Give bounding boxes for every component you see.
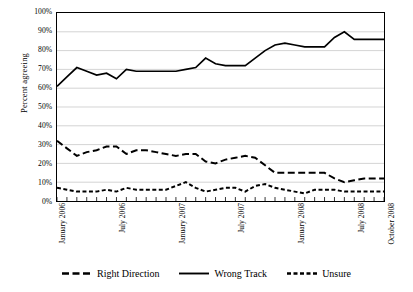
- line-chart: Percent agreeing 0%10%20%30%40%50%60%70%…: [0, 0, 413, 292]
- y-tick-label: 20%: [24, 160, 52, 168]
- y-tick-label: 10%: [24, 179, 52, 187]
- legend-label: Wrong Track: [214, 268, 267, 279]
- x-tick-label: October 2008: [388, 203, 396, 245]
- x-tick-label: July 2007: [238, 203, 246, 233]
- y-tick-label: 70%: [24, 65, 52, 73]
- legend-swatch-solid-icon: [179, 269, 209, 278]
- series-line: [57, 141, 384, 182]
- y-axis-tick-labels: 0%10%20%30%40%50%60%70%80%90%100%: [24, 12, 52, 202]
- x-tick-label: July 2008: [358, 203, 366, 233]
- chart-legend: Right DirectionWrong TrackUnsure: [0, 268, 413, 279]
- x-tick-label: January 2007: [179, 203, 187, 244]
- y-tick-label: 100%: [24, 8, 52, 16]
- x-tick-label: July 2006: [119, 203, 127, 233]
- series-line: [57, 32, 384, 87]
- legend-swatch-long-dash-icon: [62, 269, 92, 278]
- plot-area: [56, 12, 385, 202]
- y-tick-label: 50%: [24, 103, 52, 111]
- y-tick-label: 30%: [24, 141, 52, 149]
- x-axis-tick-labels: January 2006July 2006January 2007July 20…: [56, 203, 385, 263]
- x-tick-label: January 2006: [59, 203, 67, 244]
- legend-item: Wrong Track: [179, 268, 267, 279]
- y-tick-label: 0%: [24, 198, 52, 206]
- y-tick-label: 80%: [24, 46, 52, 54]
- y-tick-label: 40%: [24, 122, 52, 130]
- y-tick-label: 60%: [24, 84, 52, 92]
- plot-svg: [57, 13, 384, 201]
- x-tick-label: January 2008: [298, 203, 306, 244]
- legend-label: Unsure: [322, 268, 351, 279]
- y-tick-label: 90%: [24, 27, 52, 35]
- legend-label: Right Direction: [97, 268, 160, 279]
- legend-item: Right Direction: [62, 268, 160, 279]
- legend-swatch-short-dash-icon: [287, 269, 317, 278]
- series-line: [57, 182, 384, 193]
- legend-item: Unsure: [287, 268, 351, 279]
